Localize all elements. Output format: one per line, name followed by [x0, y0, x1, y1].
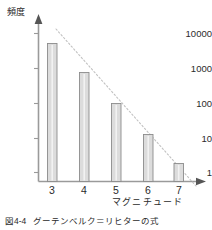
figure-caption-number: 図4-4 [5, 216, 26, 226]
y-tick-label-1: 1 [178, 167, 212, 178]
x-axis-arrow-icon [196, 178, 206, 185]
figure-gutenberg-richter: 頻度 10000 1000 100 10 1 3 4 5 6 7 マグニチュード… [0, 0, 212, 230]
y-tick-label-10000: 10000 [178, 28, 212, 39]
x-axis-label: マグニチュード [112, 195, 183, 208]
y-tick-label-10: 10 [178, 133, 212, 144]
x-tick-label-3: 3 [42, 184, 62, 196]
y-axis-arrow-icon [35, 14, 43, 24]
x-tick-label-4: 4 [74, 184, 94, 196]
y-tick-label-1000: 1000 [178, 63, 212, 74]
figure-caption-text: グーテンベルク＝リヒターの式 [33, 216, 159, 226]
y-axis-label: 頻度 [7, 5, 25, 18]
y-tick-label-100: 100 [178, 98, 212, 109]
figure-caption: 図4-4グーテンベルク＝リヒターの式 [5, 214, 159, 226]
trendline-gutenberg-richter [56, 29, 196, 186]
chart-plot-area: 頻度 10000 1000 100 10 1 3 4 5 6 7 マグニチュード [0, 0, 212, 205]
